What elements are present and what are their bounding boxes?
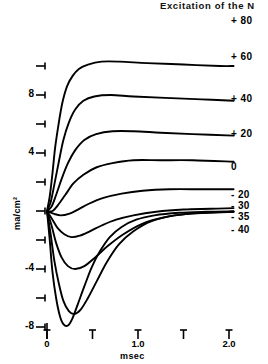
- curve-traces: [47, 61, 234, 326]
- y-tick-label: 4: [8, 146, 34, 157]
- trace-label-m40: - 40: [231, 224, 250, 235]
- chart-figure: Excitation of the N 84-4-8 01.02.0 + 80+…: [0, 0, 268, 364]
- curve-trace: [47, 131, 234, 211]
- plot-area: [0, 0, 268, 364]
- y-tick-label: -8: [8, 320, 34, 331]
- chart-title: Excitation of the N: [160, 0, 255, 11]
- trace-label-0: 0: [231, 161, 237, 172]
- y-tick-label: 8: [8, 88, 34, 99]
- x-tick-label: 0: [32, 338, 62, 349]
- trace-label-p20: + 20: [231, 128, 252, 139]
- y-axis-title: ma/cm²: [12, 197, 22, 230]
- trace-label-p60: + 60: [231, 51, 252, 62]
- trace-label-p40: + 40: [231, 93, 252, 104]
- x-tick-label: 1.0: [123, 338, 153, 349]
- trace-label-m35: - 35: [231, 211, 250, 222]
- x-tick-label: 2.0: [214, 338, 244, 349]
- x-axis-title: msec: [120, 351, 145, 361]
- trace-label-p80: + 80: [231, 15, 252, 26]
- curve-trace: [47, 211, 234, 314]
- axis-ticks: [36, 63, 233, 340]
- curve-trace: [47, 95, 234, 211]
- curve-trace: [47, 160, 234, 211]
- curve-trace: [47, 211, 234, 269]
- trace-label-m20: - 20: [231, 189, 250, 200]
- y-tick-label: -4: [8, 262, 34, 273]
- trace-label-m30: - 30: [231, 200, 250, 211]
